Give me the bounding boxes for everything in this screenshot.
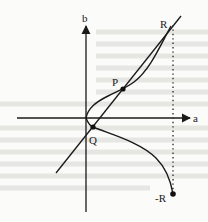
point-q-label: Q — [89, 134, 97, 146]
bleed-through-text — [0, 32, 208, 188]
point-neg-r-label: -R — [155, 192, 167, 204]
point-r-label: R — [160, 18, 168, 30]
x-axis-label: a — [193, 112, 198, 124]
point-p-label: P — [112, 76, 118, 88]
point-q — [90, 124, 95, 129]
y-axis-label: b — [82, 12, 88, 24]
point-neg-r — [170, 191, 176, 197]
point-p — [120, 86, 125, 91]
elliptic-curve-diagram: a b P Q R -R — [0, 0, 208, 222]
